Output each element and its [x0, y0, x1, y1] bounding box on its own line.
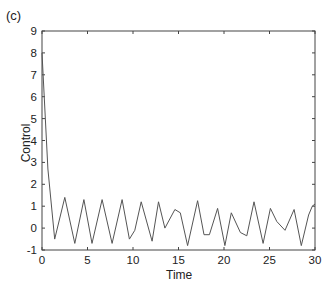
y-tick-label: 6	[31, 91, 37, 103]
y-tick-label: 4	[31, 135, 38, 147]
y-tick-label: 0	[31, 222, 37, 234]
y-tick-label: 3	[31, 156, 37, 168]
y-tick-label: 1	[31, 200, 37, 212]
data-line	[42, 53, 315, 246]
x-tick-label: 20	[218, 254, 231, 266]
x-tick-label: 15	[172, 254, 185, 266]
x-tick-label: 0	[39, 254, 45, 266]
x-tick-label: 30	[309, 254, 322, 266]
y-tick-label: 5	[31, 113, 37, 125]
y-tick-label: 2	[31, 178, 37, 190]
y-tick-label: -1	[27, 244, 37, 256]
x-tick-label: 10	[127, 254, 140, 266]
x-tick-label: 25	[263, 254, 276, 266]
plot-area: 051015202530-10123456789	[0, 0, 330, 293]
y-tick-label: 8	[31, 47, 37, 59]
x-tick-label: 5	[84, 254, 90, 266]
y-tick-label: 7	[31, 69, 37, 81]
y-tick-label: 9	[31, 25, 37, 37]
axes-box	[42, 31, 315, 250]
